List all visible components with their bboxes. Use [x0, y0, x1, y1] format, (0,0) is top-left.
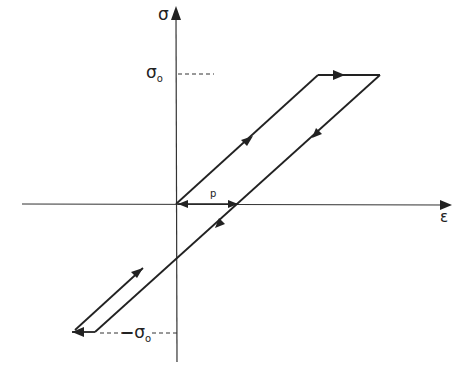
sigma0-top-label: σo	[146, 62, 163, 84]
hysteresis-diagram	[0, 0, 472, 375]
sigma0-bottom-label: −σo	[120, 322, 151, 344]
y-axis	[176, 14, 177, 362]
arrow-right-top-icon	[333, 70, 345, 80]
sigma0-top-symbol: σ	[146, 62, 157, 82]
sigma0-bottom-subscript: o	[145, 333, 151, 344]
arrow-left-bottom-icon	[72, 327, 84, 337]
y-axis-arrow-icon	[171, 6, 181, 20]
sigma0-top-subscript: o	[157, 73, 163, 84]
y-axis-label: σ	[158, 4, 169, 24]
x-axis-label: ε	[440, 208, 448, 226]
p-label: p	[210, 188, 216, 199]
sigma0-bottom-minus: −	[120, 322, 134, 342]
sigma0-bottom-symbol: σ	[134, 322, 145, 342]
